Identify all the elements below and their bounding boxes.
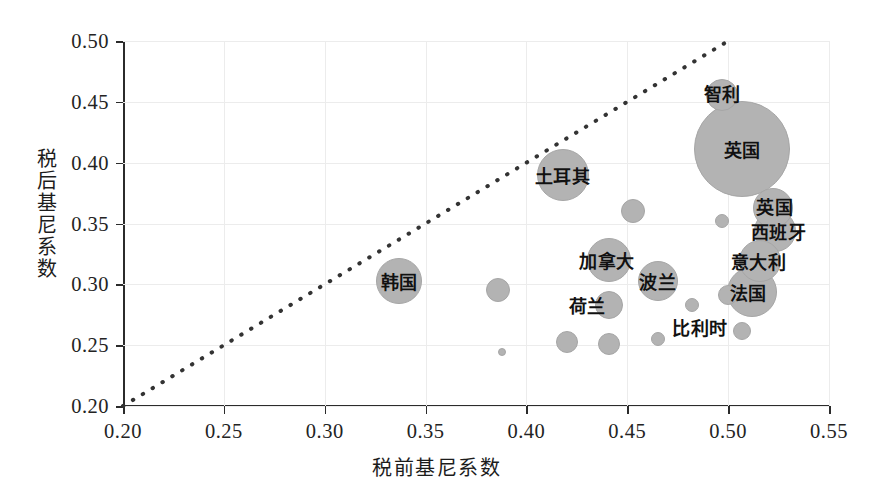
data-point[interactable] bbox=[598, 333, 620, 355]
data-point-label: 波兰 bbox=[639, 268, 676, 294]
data-point-label: 智利 bbox=[704, 80, 741, 106]
plot-area: 英国土耳其法国韩国加拿大西班牙意大利英国波兰智利荷兰比利时 bbox=[123, 41, 829, 406]
y-axis-tick-label: 0.30 bbox=[71, 273, 109, 296]
y-axis-tick bbox=[116, 163, 123, 165]
x-axis-tick-label: 0.30 bbox=[306, 420, 344, 443]
y-axis-tick bbox=[116, 284, 123, 286]
data-point-label: 比利时 bbox=[672, 314, 728, 340]
grid-line-horizontal bbox=[123, 345, 829, 346]
y-axis-tick-label: 0.45 bbox=[71, 90, 109, 113]
y-axis-label: 税后基尼系数 bbox=[33, 148, 57, 280]
y-axis-tick bbox=[116, 406, 123, 408]
data-point-label: 土耳其 bbox=[535, 162, 591, 188]
y-axis-tick-label: 0.35 bbox=[71, 212, 109, 235]
data-point-label: 意大利 bbox=[731, 248, 787, 274]
data-point-比利时[interactable] bbox=[685, 298, 699, 312]
x-axis-tick bbox=[728, 406, 730, 414]
x-axis-tick bbox=[829, 406, 831, 414]
x-axis-tick bbox=[123, 406, 125, 414]
data-point-label: 英国 bbox=[724, 136, 761, 162]
x-axis-tick bbox=[627, 406, 629, 414]
y-axis-tick bbox=[116, 102, 123, 104]
data-point[interactable] bbox=[651, 332, 665, 346]
grid-line-vertical bbox=[325, 41, 326, 406]
x-axis-tick-label: 0.25 bbox=[205, 420, 243, 443]
y-axis-tick-label: 0.20 bbox=[71, 395, 109, 418]
grid-line-vertical bbox=[526, 41, 527, 406]
bubble-chart: 税后基尼系数 英国土耳其法国韩国加拿大西班牙意大利英国波兰智利荷兰比利时 税前基… bbox=[0, 0, 873, 496]
data-point-label: 法国 bbox=[730, 279, 767, 305]
data-point[interactable] bbox=[486, 278, 510, 302]
grid-line-horizontal bbox=[123, 41, 829, 42]
y-axis-tick bbox=[116, 41, 123, 43]
x-axis-tick-label: 0.40 bbox=[507, 420, 545, 443]
y-axis-tick-label: 0.50 bbox=[71, 30, 109, 53]
x-axis-tick bbox=[325, 406, 327, 414]
grid-line-vertical bbox=[426, 41, 427, 406]
data-point-label: 加拿大 bbox=[579, 247, 635, 273]
y-axis-tick-label: 0.40 bbox=[71, 151, 109, 174]
grid-line-vertical bbox=[224, 41, 225, 406]
y-axis-tick bbox=[116, 345, 123, 347]
x-axis-tick-label: 0.50 bbox=[709, 420, 747, 443]
data-point-label: 英国 bbox=[756, 193, 793, 219]
data-point[interactable] bbox=[556, 331, 578, 353]
x-axis-tick bbox=[426, 406, 428, 414]
x-axis-tick-label: 0.45 bbox=[608, 420, 646, 443]
x-axis-tick-label: 0.55 bbox=[810, 420, 848, 443]
data-point-label: 荷兰 bbox=[569, 292, 606, 318]
y-axis-tick bbox=[116, 224, 123, 226]
grid-line-vertical bbox=[829, 41, 830, 406]
x-axis-label: 税前基尼系数 bbox=[0, 452, 873, 481]
x-axis-tick bbox=[526, 406, 528, 414]
x-axis-tick-label: 0.35 bbox=[407, 420, 445, 443]
data-point[interactable] bbox=[715, 214, 729, 228]
data-point[interactable] bbox=[733, 322, 751, 340]
data-point[interactable] bbox=[498, 348, 506, 356]
y-axis-tick-label: 0.25 bbox=[71, 334, 109, 357]
grid-line-vertical bbox=[627, 41, 628, 406]
x-axis-tick bbox=[224, 406, 226, 414]
grid-line-horizontal bbox=[123, 406, 829, 407]
x-axis-tick-label: 0.20 bbox=[104, 420, 142, 443]
data-point[interactable] bbox=[621, 199, 645, 223]
data-point-label: 西班牙 bbox=[751, 218, 807, 244]
data-point-label: 韩国 bbox=[381, 268, 418, 294]
